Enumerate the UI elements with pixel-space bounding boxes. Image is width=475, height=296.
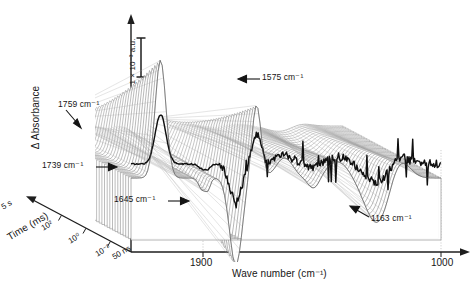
x-tick-1000: 1000: [431, 257, 453, 268]
annotation-1163: 1163 cm⁻¹: [371, 213, 412, 223]
x-axis-label: Wave number (cm⁻¹): [232, 268, 327, 279]
surface-rear-flank: [33, 126, 95, 161]
annotation-1739: 1739 cm⁻¹: [42, 160, 83, 170]
y-axis-label: Δ Absorbance: [30, 63, 41, 173]
annotation-1575: 1575 cm⁻¹: [262, 72, 303, 82]
scale-bar-label: 1 × 10⁻³ a.u.: [128, 30, 137, 94]
x-tick-1900: 1900: [190, 257, 212, 268]
annotation-1759: 1759 cm⁻¹: [58, 99, 99, 109]
annotation-1645: 1645 cm⁻¹: [114, 194, 155, 204]
scale-bar: [137, 38, 146, 77]
ftir-3d-waterfall-figure: [0, 0, 475, 296]
